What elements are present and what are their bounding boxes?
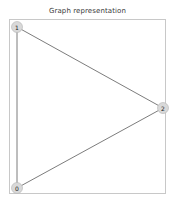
graph-figure: Graph representation 120 <box>0 0 175 206</box>
plot-frame <box>9 19 166 194</box>
page-title: Graph representation <box>0 7 175 16</box>
